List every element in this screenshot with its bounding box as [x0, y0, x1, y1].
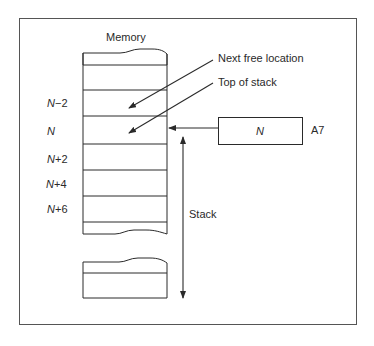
address-label-n-minus-2: N−2 — [47, 97, 68, 109]
a7-register-name: A7 — [311, 124, 324, 136]
stack-label: Stack — [189, 208, 217, 220]
memory-torn-top-edge — [83, 49, 167, 65]
address-label-n: N — [47, 125, 55, 137]
memory-title: Memory — [106, 31, 146, 43]
top-of-stack-label: Top of stack — [218, 76, 277, 88]
address-label-n-plus-6: N+6 — [47, 203, 68, 215]
memory-torn-bottom-edge — [83, 230, 167, 234]
stack-memory-diagram — [0, 0, 374, 346]
next-free-location-arrow — [129, 60, 213, 108]
next-free-location-label: Next free location — [218, 52, 304, 64]
memory-lower-block — [83, 258, 167, 298]
address-label-n-plus-2: N+2 — [47, 153, 68, 165]
figure-frame — [20, 19, 357, 325]
memory-column — [83, 49, 167, 234]
a7-register-value: N — [256, 125, 264, 137]
address-label-n-plus-4: N+4 — [46, 178, 67, 190]
